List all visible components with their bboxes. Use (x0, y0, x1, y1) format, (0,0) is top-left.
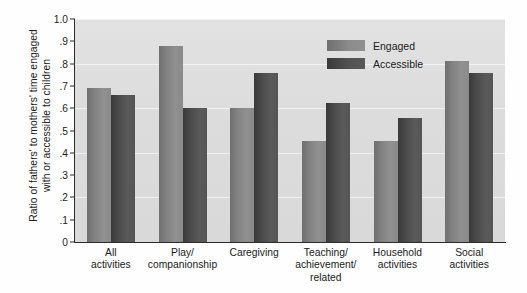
x-axis-category-line: Social (433, 247, 505, 259)
y-axis-tick-labels: 0.1.2.3.4.5.6.7.8.91.0 (48, 19, 68, 242)
legend-swatch-accessible (327, 58, 365, 69)
y-axis-tick-label: .3 (60, 170, 69, 181)
y-axis-tick-label: .2 (60, 192, 69, 203)
legend-swatch-engaged (327, 40, 365, 51)
y-axis-tick-label: .5 (60, 125, 69, 136)
bar-accessible (183, 108, 207, 242)
bar-accessible (111, 95, 135, 242)
x-axis-category-line: achievement/ (290, 259, 362, 271)
bar-engaged (159, 46, 183, 242)
y-axis-tick-label: .6 (60, 103, 69, 114)
bar-accessible (254, 73, 278, 242)
x-axis-category-line: Play/ (147, 247, 219, 259)
x-axis-category-label: Socialactivities (433, 247, 505, 272)
legend-label: Accessible (373, 58, 423, 70)
bar-accessible (326, 103, 350, 242)
x-axis-line (74, 242, 506, 243)
bar-chart-figure: Ratio of fathers' to mothers' time engag… (0, 0, 527, 293)
bar-engaged (445, 61, 469, 242)
y-axis-tick-label: 0 (62, 237, 68, 248)
y-axis-tick-label: .8 (60, 58, 69, 69)
bar-engaged (374, 141, 398, 242)
legend-item: Accessible (327, 58, 423, 69)
plot-area (75, 19, 505, 242)
x-axis-category-label: Allactivities (75, 247, 147, 272)
bar-engaged (230, 108, 254, 242)
x-axis-category-label: Teaching/achievement/related (290, 247, 362, 284)
x-axis-category-label: Caregiving (218, 247, 290, 259)
x-axis-category-label: Householdactivities (362, 247, 434, 272)
y-axis-tick-label: .4 (60, 147, 69, 158)
bar-engaged (302, 141, 326, 242)
legend-item: Engaged (327, 40, 423, 51)
x-axis-category-line: Caregiving (218, 247, 290, 259)
x-axis-category-line: related (290, 272, 362, 284)
y-axis-tick-label: .7 (60, 80, 69, 91)
x-axis-category-line: Household (362, 247, 434, 259)
legend: EngagedAccessible (327, 40, 423, 69)
x-axis-category-line: activities (362, 259, 434, 271)
x-axis-category-line: Teaching/ (290, 247, 362, 259)
y-axis-tick-label: .1 (60, 214, 69, 225)
x-axis-category-line: activities (75, 259, 147, 271)
y-axis-title-line-1: Ratio of fathers' to mothers' time engag… (28, 29, 40, 222)
x-axis-category-line: All (75, 247, 147, 259)
y-axis-tick-label: .9 (60, 36, 69, 47)
bar-series-container (75, 19, 505, 242)
x-axis-category-line: companionship (147, 259, 219, 271)
y-axis-tick-label: 1.0 (54, 14, 68, 25)
bar-engaged (87, 88, 111, 242)
legend-label: Engaged (373, 40, 415, 52)
x-axis-category-label: Play/companionship (147, 247, 219, 272)
bar-accessible (398, 118, 422, 242)
x-axis-category-labels: AllactivitiesPlay/companionshipCaregivin… (75, 247, 505, 291)
x-axis-category-line: activities (433, 259, 505, 271)
bar-accessible (469, 73, 493, 242)
